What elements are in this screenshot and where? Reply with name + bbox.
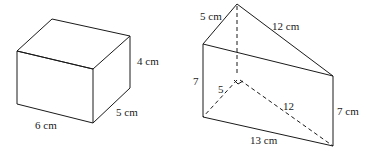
prism-hidden-long-label: 12 bbox=[283, 100, 294, 112]
box-length-label: 6 cm bbox=[35, 119, 57, 131]
prism-top-right-label: 12 cm bbox=[272, 20, 300, 32]
prism-left-height-label: 7 bbox=[193, 75, 199, 87]
prism-hidden-short-label: 5 bbox=[218, 83, 224, 95]
prism-top-face bbox=[203, 4, 333, 76]
box-top-face bbox=[17, 19, 130, 69]
prism-right-height-label: 7 cm bbox=[337, 105, 359, 117]
prism-front-base-label: 13 cm bbox=[250, 134, 278, 146]
prism-top-left-label: 5 cm bbox=[200, 10, 222, 22]
box-front-face bbox=[17, 51, 93, 123]
rectangular-box: 4 cm 5 cm 6 cm bbox=[17, 19, 159, 131]
geometry-diagram: 4 cm 5 cm 6 cm 5 cm 12 cm 7 5 12 7 cm 13… bbox=[0, 0, 373, 154]
box-width-label: 5 cm bbox=[116, 106, 138, 118]
triangular-prism: 5 cm 12 cm 7 5 12 7 cm 13 cm bbox=[193, 4, 359, 146]
box-height-label: 4 cm bbox=[137, 55, 159, 67]
